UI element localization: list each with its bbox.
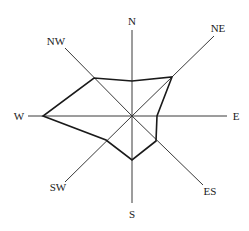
axis-label-s: S bbox=[129, 208, 135, 220]
axis-label-n: N bbox=[128, 15, 136, 27]
axis-label-sw: SW bbox=[50, 181, 67, 193]
axis-label-nw: NW bbox=[47, 35, 66, 47]
axis-line-nw bbox=[65, 48, 132, 116]
radar-axes bbox=[28, 30, 227, 203]
axis-line-es bbox=[132, 116, 203, 185]
axis-line-sw bbox=[65, 116, 132, 182]
axis-label-e: E bbox=[233, 110, 240, 122]
axis-line-ne bbox=[132, 36, 214, 116]
data-polygon bbox=[43, 77, 172, 160]
wind-rose-chart: NNEEESSSWWNW bbox=[0, 0, 249, 231]
axis-label-es: ES bbox=[204, 185, 217, 197]
axis-label-w: W bbox=[14, 110, 25, 122]
axis-label-ne: NE bbox=[211, 22, 226, 34]
